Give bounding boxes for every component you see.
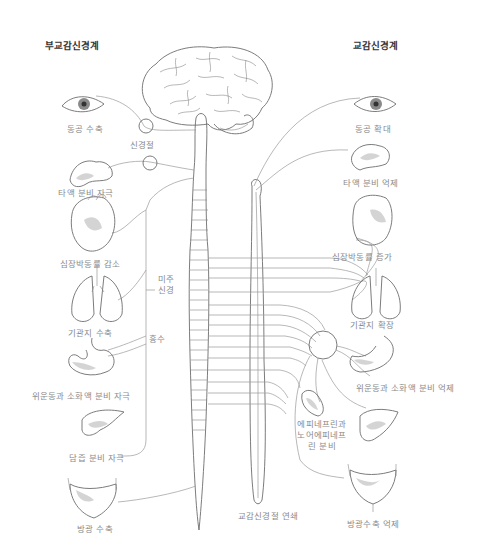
brain-illustration (142, 47, 272, 134)
sympathetic-chain (250, 179, 265, 503)
liver-icon-right (360, 409, 398, 440)
label-vagus-nerve: 미주 신경 (158, 274, 174, 296)
bladder-icon-right (348, 464, 396, 512)
label-bladder-contract: 방광 수축 (77, 522, 113, 534)
heart-icon-left (71, 194, 115, 251)
label-pupil-dilation: 동공 확대 (355, 122, 391, 134)
stomach-icon-right (350, 336, 393, 372)
label-heart-rate-decrease: 심장박동률 감소 (60, 257, 120, 269)
label-bronchi-constrict: 기관지 수축 (68, 326, 112, 338)
label-sympathetic-chain: 교감신경절 연쇄 (238, 509, 298, 521)
heart-icon-right (353, 195, 392, 245)
header-parasympathetic: 부교감신경계 (45, 38, 99, 52)
label-epinephrine-secretion: 에피네프린과 노어에피네프 린 분비 (297, 419, 346, 452)
label-bladder-inhibit: 방광수축 억제 (347, 517, 399, 529)
label-gastric-stimulate: 위운동과 소화액 분비 자극 (32, 389, 131, 401)
salivary-gland-icon-right (351, 144, 389, 170)
label-bronchi-dilate: 기관지 확장 (350, 318, 394, 330)
nervous-system-diagram (0, 0, 485, 559)
salivary-gland-icon-left (70, 161, 112, 187)
adrenal-gland-icon (302, 390, 324, 416)
ganglion-circle-eye (139, 119, 153, 133)
label-heart-rate-increase: 심장박동률 증가 (332, 250, 392, 262)
eye-icon-left (62, 97, 104, 112)
spinal-cord (189, 114, 209, 531)
label-salivary-stimulate: 타액 분비 자극 (58, 186, 113, 198)
header-sympathetic: 교감신경계 (353, 38, 398, 52)
label-pupil-constriction: 동공 수축 (67, 122, 103, 134)
lungs-icon-right (352, 268, 401, 319)
stomach-icon-left (69, 338, 114, 375)
label-thoracic-spine: 흉수 (149, 332, 165, 344)
bladder-icon-left (68, 478, 116, 518)
lungs-icon-left (72, 264, 123, 322)
liver-icon-left (82, 410, 124, 435)
label-bile-stimulate: 담즙 분비 자극 (69, 451, 124, 463)
eye-icon-right (354, 97, 396, 112)
label-ganglion: 신경절 (130, 138, 155, 150)
celiac-ganglion (309, 331, 337, 359)
spinal-nerve-lines (208, 258, 368, 414)
label-gastric-inhibit: 위운동과 소화액 분비 억제 (356, 381, 455, 393)
label-salivary-inhibit: 타액 분비 억제 (343, 176, 398, 188)
